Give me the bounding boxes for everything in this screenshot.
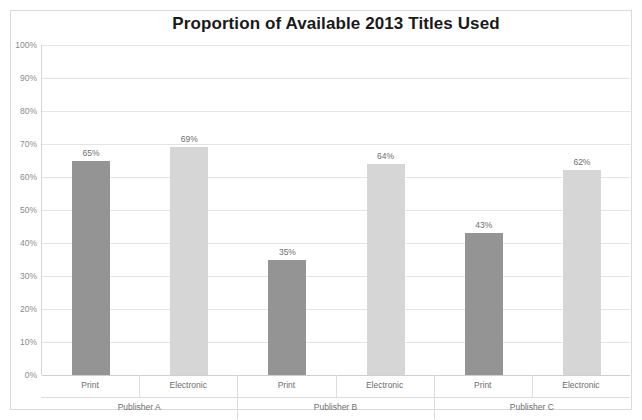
category-separator <box>139 375 140 398</box>
gridline <box>42 243 630 244</box>
y-axis-tick <box>33 375 37 376</box>
category-axis-inner: PrintElectronicPrintElectronicPrintElect… <box>41 375 630 398</box>
y-axis-tick-label: 10% <box>1 337 37 347</box>
gridline <box>42 144 630 145</box>
category-separator <box>237 375 238 398</box>
chart-container: Proportion of Available 2013 Titles Used… <box>0 0 642 420</box>
y-axis-tick <box>33 45 37 46</box>
category-label: Electronic <box>562 380 599 390</box>
y-axis-tick <box>33 276 37 277</box>
category-separator <box>532 375 533 398</box>
y-axis-tick <box>33 309 37 310</box>
gridline <box>42 342 630 343</box>
bar-value-label: 62% <box>573 157 590 167</box>
category-label: Electronic <box>366 380 403 390</box>
y-axis-tick-label: 70% <box>1 139 37 149</box>
group-label: Publisher C <box>510 402 554 412</box>
bar-value-label: 65% <box>83 148 100 158</box>
bar-publisher-c-electronic <box>563 170 601 375</box>
gridline <box>42 111 630 112</box>
group-separator <box>237 398 238 419</box>
bar-publisher-b-electronic <box>367 164 405 375</box>
y-axis: 0%10%20%30%40%50%60%70%80%90%100% <box>0 45 37 375</box>
y-axis-tick-label: 60% <box>1 172 37 182</box>
gridline <box>42 45 630 46</box>
category-axis-outer: Publisher APublisher BPublisher C <box>41 398 630 419</box>
gridline <box>42 177 630 178</box>
gridline <box>42 309 630 310</box>
category-label: Electronic <box>170 380 207 390</box>
gridline <box>42 78 630 79</box>
bar-publisher-a-electronic <box>170 147 208 375</box>
bar-value-label: 35% <box>279 247 296 257</box>
y-axis-tick-label: 50% <box>1 205 37 215</box>
y-axis-tick-label: 0% <box>1 370 37 380</box>
bar-value-label: 43% <box>475 220 492 230</box>
y-axis-tick-label: 80% <box>1 106 37 116</box>
category-label: Print <box>278 380 295 390</box>
plot-area: 65%69%35%64%43%62% <box>41 45 630 375</box>
y-axis-tick <box>33 144 37 145</box>
y-axis-tick-label: 40% <box>1 238 37 248</box>
group-separator <box>434 398 435 419</box>
y-axis-tick <box>33 210 37 211</box>
y-axis-tick-label: 100% <box>1 40 37 50</box>
y-axis-tick <box>33 177 37 178</box>
group-label: Publisher A <box>118 402 161 412</box>
chart-title: Proportion of Available 2013 Titles Used <box>40 14 632 34</box>
bar-value-label: 69% <box>181 134 198 144</box>
y-axis-tick <box>33 243 37 244</box>
gridline <box>42 210 630 211</box>
y-axis-tick <box>33 342 37 343</box>
gridline <box>42 276 630 277</box>
y-axis-tick-label: 20% <box>1 304 37 314</box>
bar-publisher-c-print <box>465 233 503 375</box>
category-separator <box>434 375 435 398</box>
group-label: Publisher B <box>314 402 357 412</box>
bar-publisher-b-print <box>268 260 306 376</box>
category-label: Print <box>474 380 491 390</box>
category-separator <box>336 375 337 398</box>
category-label: Print <box>81 380 98 390</box>
bar-publisher-a-print <box>72 161 110 376</box>
bar-value-label: 64% <box>377 151 394 161</box>
y-axis-tick-label: 30% <box>1 271 37 281</box>
y-axis-tick <box>33 78 37 79</box>
y-axis-tick-label: 90% <box>1 73 37 83</box>
y-axis-tick <box>33 111 37 112</box>
